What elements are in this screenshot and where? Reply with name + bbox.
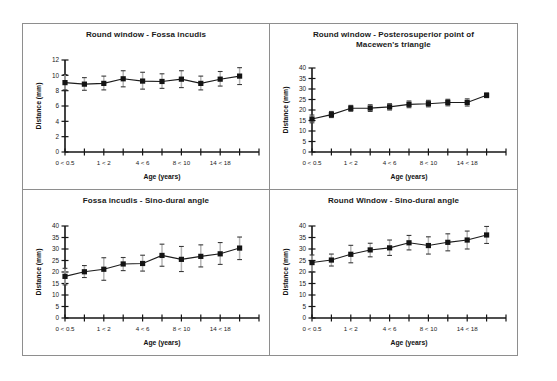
y-tick-label: 35: [299, 233, 307, 240]
figure-panel-grid: Round window - Fossa incudis 0246810120 …: [22, 23, 518, 356]
data-point-marker: [445, 239, 450, 244]
x-tick-label: 8 < 10: [173, 324, 191, 331]
data-point-marker: [465, 100, 470, 105]
data-point-marker: [348, 106, 353, 111]
data-point-marker: [309, 116, 314, 121]
data-point-marker: [426, 101, 431, 106]
y-tick-label: 12: [52, 56, 60, 63]
data-point-marker: [140, 260, 145, 265]
data-point-marker: [237, 74, 242, 79]
x-axis-title: Age (years): [390, 339, 427, 347]
x-axis-title: Age (years): [143, 339, 180, 347]
data-point-marker: [329, 112, 334, 117]
y-tick-label: 0: [55, 148, 59, 155]
x-tick-label: 0 < 0.5: [302, 159, 322, 166]
data-point-marker: [121, 76, 126, 81]
y-tick-label: 5: [302, 138, 306, 145]
x-tick-label: 14 < 18: [457, 159, 478, 166]
data-point-marker: [406, 240, 411, 245]
y-tick-label: 5: [55, 302, 59, 309]
data-point-marker: [101, 81, 106, 86]
data-point-marker: [218, 77, 223, 82]
y-tick-label: 40: [299, 64, 307, 71]
y-tick-label: 15: [52, 279, 60, 286]
y-axis-title: Distance (mm): [282, 248, 290, 295]
chart-panel-round-window-fossa-incudis: Round window - Fossa incudis 0246810120 …: [23, 24, 270, 190]
x-tick-label: 1 < 2: [97, 324, 111, 331]
y-tick-label: 30: [299, 245, 307, 252]
x-axis-title: Age (years): [390, 173, 427, 181]
y-tick-label: 10: [52, 291, 60, 298]
data-point-marker: [368, 106, 373, 111]
y-tick-label: 35: [52, 233, 60, 240]
y-tick-label: 10: [299, 127, 307, 134]
data-point-marker: [82, 82, 87, 87]
data-point-marker: [62, 80, 67, 85]
data-point-marker: [484, 93, 489, 98]
data-point-marker: [82, 269, 87, 274]
y-tick-label: 10: [299, 291, 307, 298]
x-tick-label: 8 < 10: [173, 159, 191, 166]
y-tick-label: 20: [299, 268, 307, 275]
data-point-marker: [140, 78, 145, 83]
x-tick-label: 14 < 18: [457, 324, 478, 331]
y-tick-label: 5: [302, 302, 306, 309]
y-tick-label: 0: [55, 314, 59, 321]
x-tick-label: 14 < 18: [210, 324, 231, 331]
data-point-marker: [62, 273, 67, 278]
data-point-marker: [465, 237, 470, 242]
x-tick-label: 0 < 0.5: [55, 324, 75, 331]
y-tick-label: 25: [52, 256, 60, 263]
y-tick-label: 25: [299, 256, 307, 263]
series-line: [312, 95, 487, 119]
y-tick-label: 35: [299, 75, 307, 82]
y-tick-label: 4: [55, 118, 59, 125]
x-tick-label: 8 < 10: [420, 324, 438, 331]
plot-area: 05101520253035400 < 0.51 < 24 < 68 < 101…: [270, 24, 517, 189]
data-point-marker: [179, 77, 184, 82]
y-axis-title: Distance (mm): [35, 83, 43, 130]
x-tick-label: 4 < 6: [136, 159, 150, 166]
data-point-marker: [159, 252, 164, 257]
x-tick-label: 4 < 6: [383, 159, 397, 166]
data-point-marker: [406, 102, 411, 107]
data-point-marker: [329, 257, 334, 262]
series-line: [312, 234, 487, 262]
data-point-marker: [484, 232, 489, 237]
y-tick-label: 30: [299, 85, 307, 92]
y-tick-label: 15: [299, 117, 307, 124]
y-tick-label: 40: [299, 222, 307, 229]
y-tick-label: 40: [52, 222, 60, 229]
y-tick-label: 25: [299, 96, 307, 103]
x-tick-label: 1 < 2: [344, 159, 358, 166]
data-point-marker: [387, 245, 392, 250]
x-tick-label: 1 < 2: [97, 159, 111, 166]
y-axis-title: Distance (mm): [282, 87, 290, 134]
series-line: [65, 76, 240, 84]
data-point-marker: [309, 259, 314, 264]
y-tick-label: 8: [55, 87, 59, 94]
plot-area: 0246810120 < 0.51 < 24 < 68 < 1014 < 18A…: [23, 24, 269, 189]
chart-panel-round-window-sino-dural: Round Window - Sino-dural angle 05101520…: [270, 190, 517, 356]
data-point-marker: [368, 247, 373, 252]
data-point-marker: [387, 104, 392, 109]
data-point-marker: [198, 81, 203, 86]
x-tick-label: 14 < 18: [210, 159, 231, 166]
plot-area: 05101520253035400 < 0.51 < 24 < 68 < 101…: [270, 190, 517, 356]
y-tick-label: 6: [55, 102, 59, 109]
series-line: [65, 248, 240, 276]
y-tick-label: 2: [55, 133, 59, 140]
x-tick-label: 8 < 10: [420, 159, 438, 166]
y-tick-label: 0: [302, 314, 306, 321]
x-tick-label: 1 < 2: [344, 324, 358, 331]
data-point-marker: [445, 100, 450, 105]
data-point-marker: [101, 266, 106, 271]
data-point-marker: [179, 256, 184, 261]
data-point-marker: [121, 261, 126, 266]
x-tick-label: 4 < 6: [136, 324, 150, 331]
y-tick-label: 0: [302, 148, 306, 155]
x-tick-label: 4 < 6: [383, 324, 397, 331]
y-tick-label: 15: [299, 279, 307, 286]
y-tick-label: 20: [52, 268, 60, 275]
y-tick-label: 20: [299, 106, 307, 113]
